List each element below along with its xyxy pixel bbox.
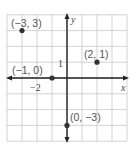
coordinate-plane: x y −2 1 (−3, 3) (2, 1) (−1, 0) (0, −3) [0,0,134,145]
data-point [49,75,54,80]
x-axis-label: x [120,82,126,93]
y-axis-label: y [70,14,76,25]
data-point [64,123,69,128]
point-label-2-1: (2, 1) [84,48,109,60]
point-label-neg1-0: (−1, 0) [12,64,43,76]
y-axis-up-arrow-icon [65,13,70,19]
data-point [94,60,99,65]
x-axis-right-arrow-icon [123,76,129,81]
point-label-neg3-3: (−3, 3) [11,17,42,29]
x-tick-label: −2 [30,82,41,93]
y-axis-down-arrow-icon [65,137,70,143]
point-label-0-neg3: (0, −3) [70,111,101,123]
y-tick-label: 1 [58,58,63,69]
